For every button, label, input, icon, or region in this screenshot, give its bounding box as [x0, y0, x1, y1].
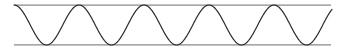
waveform-canvas — [0, 0, 343, 53]
sinusoidal-waveform-diagram — [0, 0, 343, 53]
